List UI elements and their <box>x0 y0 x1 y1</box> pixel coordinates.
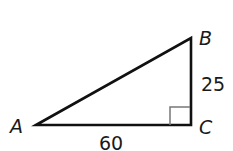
triangle-diagram: A B C 25 60 <box>0 0 233 151</box>
vertex-label-c: C <box>199 116 213 138</box>
triangle-abc <box>36 38 191 125</box>
side-label-ac: 60 <box>99 132 123 151</box>
vertex-label-b: B <box>199 27 212 49</box>
right-angle-mark <box>170 107 190 125</box>
vertex-label-a: A <box>8 115 23 137</box>
side-label-bc: 25 <box>201 73 225 95</box>
